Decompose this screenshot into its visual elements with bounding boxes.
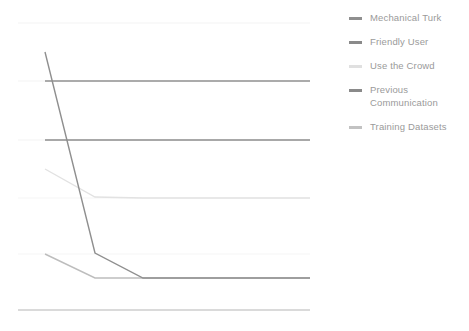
legend-item-training-datasets[interactable]: Training Datasets [349,120,469,133]
legend-swatch-icon [349,89,362,92]
legend-item-use-the-crowd[interactable]: Use the Crowd [349,59,469,72]
line-chart: Mechanical Turk Friendly User Use the Cr… [0,0,469,331]
legend-swatch-icon [349,17,362,20]
data-series [45,52,310,278]
legend-label: Mechanical Turk [370,11,441,24]
legend-swatch-icon [349,65,362,68]
series-line-training-datasets [45,254,310,278]
legend-item-friendly-user[interactable]: Friendly User [349,35,469,48]
series-line-mechanical-turk [45,52,310,278]
legend-swatch-icon [349,41,362,44]
series-line-use-the-crowd [45,169,310,198]
legend-label: Friendly User [370,35,428,48]
legend-item-mechanical-turk[interactable]: Mechanical Turk [349,11,469,24]
gridlines [18,23,310,254]
legend-label: Training Datasets [370,120,447,133]
legend-swatch-icon [349,126,362,129]
legend-label: Previous Communication [370,83,438,109]
chart-legend: Mechanical Turk Friendly User Use the Cr… [349,11,469,144]
legend-item-previous-communication[interactable]: Previous Communication [349,83,469,109]
legend-label: Use the Crowd [370,59,435,72]
